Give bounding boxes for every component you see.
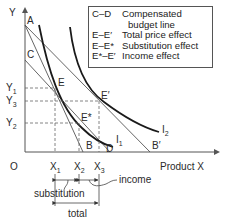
point-E-prime-label: E′	[101, 90, 110, 101]
x-tick-X1: X1	[50, 161, 61, 174]
point-B-label: B	[86, 140, 93, 151]
compensated-budget-line-CD	[25, 60, 110, 152]
curve-I2-label: I2	[162, 124, 169, 137]
legend-row-income: E*–E′ Income effect	[92, 51, 209, 62]
y-axis-label: Y	[9, 7, 16, 18]
y-tick-Y3: Y3	[6, 95, 17, 108]
point-D-label: D	[106, 143, 113, 154]
point-C-label: C	[27, 49, 34, 60]
legend-row-compensated: C–D Compensated	[92, 9, 209, 20]
legend-key: C–D	[92, 9, 122, 20]
curve-I1-label: I1	[116, 134, 123, 147]
legend: C–D Compensated budget line E–E′ Total p…	[88, 6, 213, 68]
budget-line-AB	[25, 25, 83, 152]
origin-label: O	[10, 161, 18, 172]
x-tick-X3: X3	[94, 161, 105, 174]
total-annotation: total	[68, 208, 87, 219]
legend-value: Compensated	[122, 9, 209, 20]
price-effect-diagram: Y Product X O A C E E′ E* B D B′ I1 I2	[0, 0, 227, 224]
point-E-label: E	[58, 77, 65, 88]
y-tick-Y2: Y2	[6, 117, 17, 130]
y-tick-Y1: Y1	[6, 82, 17, 95]
point-E-star-label: E*	[81, 112, 92, 123]
point-A-label: A	[27, 15, 34, 26]
x-tick-X2: X2	[74, 161, 85, 174]
legend-key: E*–E′	[92, 51, 122, 62]
x-axis-label: Product X	[160, 161, 204, 172]
legend-value: Income effect	[122, 51, 209, 62]
income-annotation: income	[119, 174, 152, 185]
point-B-prime-label: B′	[152, 140, 161, 151]
substitution-annotation: substitution	[34, 188, 85, 199]
